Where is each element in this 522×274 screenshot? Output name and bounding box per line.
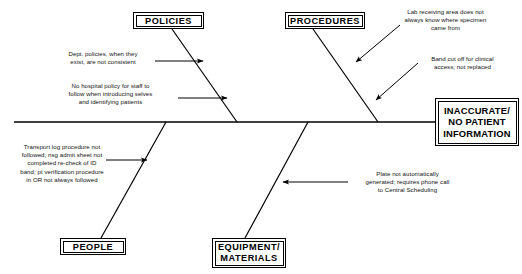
category-label-equipment-line2: MATERIALS — [220, 253, 277, 264]
category-box-equipment-materials[interactable]: EQUIPMENT/ MATERIALS — [212, 238, 286, 268]
effect-label-line1: INACCURATE/ — [444, 105, 510, 116]
cause-text-lab-receiving: Lab receiving area does not always know … — [382, 8, 509, 33]
cause-text-transport-log: Transport log procedure not followed; ns… — [12, 143, 112, 184]
category-label-equipment-materials: EQUIPMENT/ MATERIALS — [215, 241, 284, 266]
bone-policies — [172, 29, 237, 122]
category-box-people[interactable]: PEOPLE — [60, 238, 126, 255]
effect-label-line2: NO PATIENT — [448, 116, 505, 127]
effect-box[interactable]: INACCURATE/ NO PATIENT INFORMATION — [435, 98, 519, 146]
cause-text-no-hospital-policy: No hospital policy for staff to follow w… — [42, 82, 179, 107]
category-label-people: PEOPLE — [63, 241, 124, 253]
cause-text-band-cut-off: Band cut off for clinical access; not re… — [412, 55, 513, 71]
cause-text-plate-not-generated: Plate not automatically generated; requi… — [351, 170, 464, 195]
bone-procedures — [313, 29, 378, 122]
category-label-procedures: PROCEDURES — [288, 15, 363, 27]
effect-label-line3: INFORMATION — [443, 128, 511, 139]
effect-box-inner: INACCURATE/ NO PATIENT INFORMATION — [438, 101, 517, 144]
category-label-equipment-line1: EQUIPMENT/ — [218, 242, 280, 253]
category-box-procedures[interactable]: PROCEDURES — [285, 12, 365, 29]
bone-equipment-materials — [245, 122, 308, 238]
fishbone-diagram-canvas: POLICIES PROCEDURES PEOPLE EQUIPMENT/ MA… — [0, 0, 522, 274]
category-label-policies: POLICIES — [136, 15, 202, 27]
category-box-policies[interactable]: POLICIES — [133, 12, 204, 29]
cause-text-dept-policies: Dept. policies, when they exist, are not… — [49, 50, 157, 66]
